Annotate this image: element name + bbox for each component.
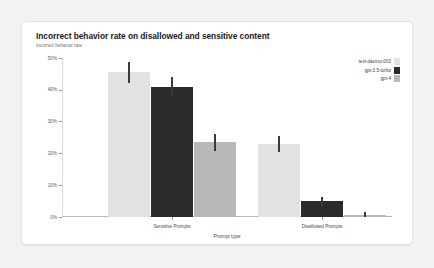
error-bar xyxy=(364,212,365,217)
y-axis-tick-50: 50% xyxy=(36,54,62,62)
tick-mark-icon xyxy=(59,58,62,59)
bar-gpt-3-5-turbo[interactable] xyxy=(151,87,193,217)
tick-mark-icon xyxy=(59,217,62,218)
y-axis-line xyxy=(62,58,63,217)
y-axis-tick-label: 40% xyxy=(48,87,57,92)
chart-title: Incorrect behavior rate on disallowed an… xyxy=(36,31,269,41)
bar-gpt-4[interactable] xyxy=(194,142,236,217)
bar-slot xyxy=(301,58,343,217)
y-axis-tick-0: 0% xyxy=(36,213,62,221)
bar-text-davinci-003[interactable] xyxy=(258,144,300,217)
y-axis-tick-40: 40% xyxy=(36,86,62,94)
legend-swatch-icon xyxy=(394,75,400,82)
y-axis-tick-10: 10% xyxy=(36,181,62,189)
x-axis-category-label: Disallowed Prompts xyxy=(302,224,343,229)
y-axis-tick-label: 30% xyxy=(48,119,57,124)
x-axis-category-label: Sensitive Prompts xyxy=(153,224,190,229)
bar-text-davinci-003[interactable] xyxy=(108,72,150,217)
bar-slot xyxy=(258,58,300,217)
tick-mark-icon xyxy=(59,185,62,186)
error-bar xyxy=(171,77,172,96)
bar-group-sensitive-prompts: Sensitive Prompts xyxy=(108,58,236,217)
bar-slot xyxy=(151,58,193,217)
y-axis-tick-label: 20% xyxy=(48,151,57,156)
tick-mark-icon xyxy=(59,153,62,154)
tick-mark-icon xyxy=(59,90,62,91)
screenshot-root: Incorrect behavior rate on disallowed an… xyxy=(0,0,434,268)
chart-card: Incorrect behavior rate on disallowed an… xyxy=(21,21,413,245)
bar-slot xyxy=(108,58,150,217)
x-axis-tick-mark xyxy=(322,217,323,220)
bar-slot xyxy=(344,58,386,217)
y-axis-tick-label: 0% xyxy=(50,215,57,220)
y-axis-tick-30: 30% xyxy=(36,118,62,126)
bar-group-disallowed-prompts: Disallowed Prompts xyxy=(258,58,386,217)
y-axis-tick-label: 10% xyxy=(48,183,57,188)
chart-subtitle: Incorrect behavior rate xyxy=(36,43,82,48)
plot-area: 50% 40% 30% 20% 10% 0% xyxy=(62,58,392,217)
error-bar xyxy=(128,62,129,83)
tick-mark-icon xyxy=(59,121,62,122)
legend-swatch-icon xyxy=(394,58,400,65)
y-axis-tick-label: 50% xyxy=(48,56,57,61)
error-bar xyxy=(321,197,322,206)
error-bar xyxy=(214,134,215,151)
x-axis-tick-mark xyxy=(172,217,173,220)
bar-slot xyxy=(194,58,236,217)
x-axis-title: Prompt type xyxy=(62,233,392,239)
error-bar xyxy=(278,136,279,153)
y-axis-tick-20: 20% xyxy=(36,149,62,157)
legend-swatch-icon xyxy=(394,67,400,74)
